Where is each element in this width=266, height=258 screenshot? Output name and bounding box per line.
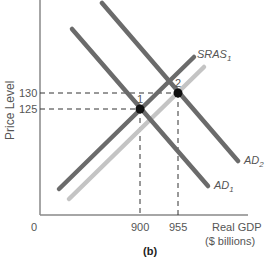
ad2-label: AD2 xyxy=(244,155,264,169)
x-axis-label-line1: Real GDP xyxy=(212,222,262,233)
ad2-line xyxy=(102,3,238,161)
figure-caption: (b) xyxy=(143,245,157,257)
sras2-line xyxy=(69,67,204,199)
point-label-2: 2 xyxy=(175,78,181,89)
equilibrium-point-1 xyxy=(136,105,145,114)
y-tick-125: 125 xyxy=(19,104,37,115)
equilibrium-point-2 xyxy=(174,89,183,98)
x-axis-label-line2: ($ billions) xyxy=(205,236,255,247)
ad1-label: AD1 xyxy=(214,180,234,194)
y-tick-130: 130 xyxy=(19,88,37,99)
y-axis-label: Price Level xyxy=(3,81,17,140)
sras1-label: SRAS1 xyxy=(197,49,231,63)
sras1-line xyxy=(59,57,194,189)
chart-canvas xyxy=(0,0,266,258)
x-tick-900: 900 xyxy=(131,222,149,233)
origin-label: 0 xyxy=(31,222,37,233)
x-tick-955: 955 xyxy=(169,222,187,233)
point-label-1: 1 xyxy=(137,94,143,105)
